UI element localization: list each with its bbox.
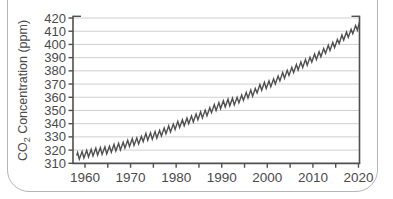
x-tick-label: 2020 [343, 170, 373, 185]
x-tick-label: 1970 [116, 170, 146, 185]
co2-keeling-chart: 3103203303403503603703803904004104201960… [0, 0, 393, 199]
y-axis-title: CO2 Concentration (ppm) [16, 20, 32, 161]
y-tick-label: 390 [44, 50, 66, 65]
co2-concentration-line [77, 22, 360, 159]
y-tick-label: 320 [44, 143, 66, 158]
x-tick-label: 1960 [70, 170, 100, 185]
y-tick-label: 310 [44, 156, 66, 171]
x-tick-label: 1990 [207, 170, 237, 185]
x-tick-label: 1980 [161, 170, 191, 185]
y-tick-label: 350 [44, 103, 66, 118]
y-tick-label: 420 [44, 11, 66, 26]
y-tick-label: 410 [44, 24, 66, 39]
y-tick-label: 380 [44, 63, 66, 78]
x-tick-label: 2000 [252, 170, 282, 185]
y-tick-label: 370 [44, 77, 66, 92]
x-tick-label: 2010 [298, 170, 328, 185]
y-tick-label: 330 [44, 129, 66, 144]
y-tick-label: 400 [44, 37, 66, 52]
y-tick-label: 360 [44, 90, 66, 105]
y-tick-label: 340 [44, 116, 66, 131]
